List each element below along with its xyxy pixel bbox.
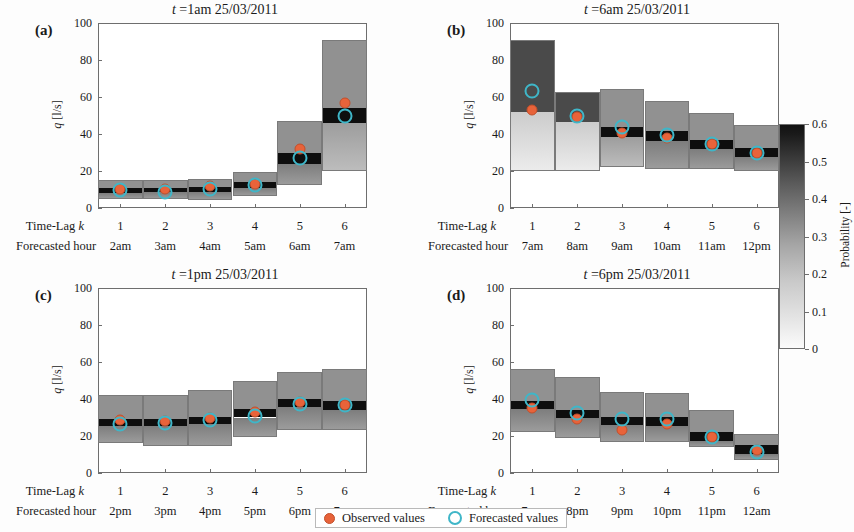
x-forecast-hour-label: 3pm: [154, 504, 176, 519]
density-segment-lower: [510, 112, 555, 171]
y-tick-mark: [510, 436, 514, 437]
panel-tag-d: (d): [447, 287, 465, 304]
forecasted-value-marker: [570, 405, 585, 420]
x-tick-mark: [255, 469, 256, 473]
density-segment-lower: [689, 149, 734, 169]
forecasted-value-marker: [203, 181, 218, 196]
legend-forecasted-marker-icon: [448, 511, 462, 525]
y-tick-mark: [510, 23, 514, 24]
forecasted-value-marker: [659, 412, 674, 427]
x-forecast-hour-label: 12am: [743, 504, 771, 519]
y-tick-label: 80: [472, 53, 504, 68]
x-tick-mark: [120, 469, 121, 473]
x-forecast-hour-label: 2am: [110, 239, 132, 254]
x-row-header-timelag: Time-Lag k: [428, 484, 496, 499]
y-tick-label: 20: [472, 164, 504, 179]
forecasted-value-marker: [337, 398, 352, 413]
panel-title-b: t =6am 25/03/2011: [472, 2, 802, 18]
y-label-units: [l/s]: [462, 100, 476, 122]
title-time-text: =6pm 25/03/2011: [587, 267, 690, 282]
y-tick-mark: [510, 473, 514, 474]
x-forecast-hour-label: 9am: [611, 239, 633, 254]
y-tick-mark: [510, 362, 514, 363]
colorbar-tick-label: 0.2: [812, 267, 827, 282]
forecasted-value-marker: [570, 109, 585, 124]
x-tick-mark: [622, 469, 623, 473]
density-segment-upper: [322, 369, 367, 400]
density-segment-upper: [233, 381, 278, 410]
colorbar-tick-mark: [805, 349, 809, 350]
y-tick-label: 60: [472, 355, 504, 370]
forecasted-value-marker: [158, 416, 173, 431]
x-timelag-label: 4: [664, 219, 670, 234]
y-tick-label: 40: [472, 392, 504, 407]
y-tick-label: 20: [60, 164, 92, 179]
forecasted-value-marker: [292, 151, 307, 166]
x-forecast-hour-label: 2pm: [109, 504, 131, 519]
x-tick-mark: [712, 469, 713, 473]
forecasted-value-marker: [525, 84, 540, 99]
forecasted-value-marker: [158, 185, 173, 200]
x-tick-mark: [210, 204, 211, 208]
x-forecast-hour-label: 9pm: [611, 504, 633, 519]
panel-tag-a: (a): [35, 22, 53, 39]
x-timelag-label: 5: [297, 219, 303, 234]
y-axis-label: q [l/s]: [50, 79, 65, 149]
figure-root: (a)t =1am 25/03/2011020406080100q [l/s]1…: [0, 0, 854, 532]
y-label-variable: q: [462, 122, 476, 128]
x-forecast-hour-label: 5pm: [244, 504, 266, 519]
x-tick-mark: [667, 469, 668, 473]
x-forecast-hour-label: 10pm: [653, 504, 681, 519]
x-tick-mark: [622, 204, 623, 208]
colorbar-tick-label: 0.1: [812, 304, 827, 319]
colorbar-tick-mark: [805, 162, 809, 163]
colorbar-tick-label: 0: [812, 342, 818, 357]
panel-title-c: t =1pm 25/03/2011: [60, 267, 390, 283]
y-tick-mark: [98, 60, 102, 61]
x-row-header-forecast-hour: Forecasted hour: [428, 239, 496, 254]
colorbar-axis-label: Probability [-]: [839, 175, 851, 295]
x-forecast-hour-label: 7am: [522, 239, 544, 254]
x-timelag-label: 5: [709, 484, 715, 499]
x-row-header-timelag: Time-Lag k: [16, 484, 84, 499]
x-timelag-label: 6: [341, 219, 347, 234]
y-tick-mark: [98, 473, 102, 474]
y-tick-mark: [98, 171, 102, 172]
y-tick-label: 20: [472, 429, 504, 444]
density-segment-lower: [322, 123, 367, 171]
colorbar-gradient: [779, 124, 805, 349]
x-tick-mark: [577, 469, 578, 473]
x-row-header-timelag-text: Time-Lag: [26, 219, 79, 233]
x-forecast-hour-label: 6pm: [289, 504, 311, 519]
colorbar-tick-mark: [805, 274, 809, 275]
x-timelag-label: 4: [252, 219, 258, 234]
y-tick-label: 20: [60, 429, 92, 444]
forecasted-value-marker: [659, 127, 674, 142]
x-row-header-timelag-text: Time-Lag: [438, 484, 491, 498]
y-tick-label: 0: [60, 201, 92, 216]
y-tick-label: 40: [60, 127, 92, 142]
forecasted-value-marker: [749, 146, 764, 161]
x-tick-mark: [210, 469, 211, 473]
x-row-header-timelag-symbol: k: [78, 484, 84, 498]
forecasted-value-marker: [749, 444, 764, 459]
density-segment-lower: [645, 141, 690, 169]
title-time-text: =1am 25/03/2011: [176, 2, 278, 17]
observed-value-marker: [527, 104, 538, 115]
x-forecast-hour-label: 11am: [698, 239, 725, 254]
x-row-header-timelag-symbol: k: [490, 219, 496, 233]
panel-title-d: t =6pm 25/03/2011: [472, 267, 802, 283]
forecasted-value-marker: [203, 413, 218, 428]
x-forecast-hour-label: 8pm: [566, 504, 588, 519]
x-tick-mark: [165, 204, 166, 208]
colorbar-tick-label: 0.3: [812, 229, 827, 244]
y-tick-label: 40: [60, 392, 92, 407]
x-row-header-forecast-hour: Forecasted hour: [16, 504, 84, 519]
density-segment-upper: [689, 113, 734, 140]
title-time-text: =6am 25/03/2011: [588, 2, 690, 17]
x-forecast-hour-label: 4am: [199, 239, 221, 254]
x-timelag-label: 5: [297, 484, 303, 499]
figure-legend: Observed valuesForecasted values: [315, 508, 567, 528]
x-tick-mark: [757, 204, 758, 208]
y-tick-mark: [98, 97, 102, 98]
